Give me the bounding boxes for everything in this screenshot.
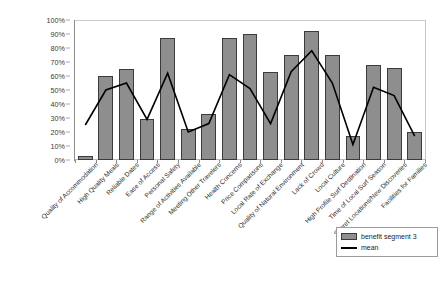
y-axis-tick-mark — [66, 48, 70, 49]
y-axis-tick-70: 70% — [51, 59, 65, 66]
bar-slot — [384, 20, 405, 160]
chart-screenshot: 100%90%80%70%60%50%40%30%20%10%0% Qualit… — [0, 0, 444, 283]
bar[interactable] — [346, 136, 361, 160]
y-axis-tick-30: 30% — [51, 115, 65, 122]
y-axis-tick-90: 90% — [51, 31, 65, 38]
legend-bar-swatch-icon — [341, 233, 357, 240]
bar-slot — [240, 20, 261, 160]
y-axis-tick-10: 10% — [51, 143, 65, 150]
bar-slot — [343, 20, 364, 160]
bar-slot — [116, 20, 137, 160]
bar[interactable] — [160, 38, 175, 160]
bar[interactable] — [304, 31, 319, 160]
bar-slot — [75, 20, 96, 160]
bar[interactable] — [325, 55, 340, 160]
bar[interactable] — [78, 156, 93, 160]
bar[interactable] — [263, 72, 278, 160]
y-axis-tick-20: 20% — [51, 129, 65, 136]
legend-label-mean: mean — [361, 244, 379, 251]
y-axis-tick-mark — [66, 90, 70, 91]
y-axis-tick-mark — [66, 76, 70, 77]
bar-slot — [260, 20, 281, 160]
bar-slot — [96, 20, 117, 160]
bar-slot — [281, 20, 302, 160]
bar[interactable] — [140, 119, 155, 160]
bar-slot — [301, 20, 322, 160]
y-axis-tick-mark — [66, 146, 70, 147]
bar-slot — [178, 20, 199, 160]
bar[interactable] — [366, 65, 381, 160]
legend-line-swatch-icon — [341, 247, 357, 249]
legend-item-mean: mean — [341, 242, 433, 253]
bar[interactable] — [243, 34, 258, 160]
y-axis-tick-mark — [66, 132, 70, 133]
y-axis-tick-80: 80% — [51, 45, 65, 52]
y-axis-tick-mark — [66, 118, 70, 119]
bar-slot — [363, 20, 384, 160]
bar[interactable] — [222, 38, 237, 160]
bar[interactable] — [181, 129, 196, 160]
y-axis-tick-mark — [66, 20, 70, 21]
bar[interactable] — [387, 68, 402, 160]
bar-slot — [404, 20, 425, 160]
legend-item-benefit-segment-3: benefit segment 3 — [341, 231, 433, 242]
chart-title — [0, 0, 444, 5]
legend-label-benefit-segment-3: benefit segment 3 — [361, 233, 417, 240]
y-axis-tick-60: 60% — [51, 73, 65, 80]
chart-legend: benefit segment 3 mean — [336, 227, 438, 257]
y-axis-tick-mark — [66, 104, 70, 105]
y-axis-tick-mark — [66, 34, 70, 35]
bar-slot — [157, 20, 178, 160]
bar[interactable] — [201, 114, 216, 160]
bar-slot — [219, 20, 240, 160]
y-axis-tick-100: 100% — [47, 17, 65, 24]
y-axis-tick-labels: 100%90%80%70%60%50%40%30%20%10%0% — [18, 20, 70, 160]
bar[interactable] — [284, 55, 299, 160]
bar[interactable] — [119, 69, 134, 160]
y-axis-tick-40: 40% — [51, 101, 65, 108]
y-axis-tick-mark — [66, 62, 70, 63]
bar[interactable] — [98, 76, 113, 160]
bar-slot — [137, 20, 158, 160]
bar-slot — [199, 20, 220, 160]
bar-slot — [322, 20, 343, 160]
y-axis-tick-50: 50% — [51, 87, 65, 94]
bar[interactable] — [407, 132, 422, 160]
bars-layer — [75, 20, 425, 160]
